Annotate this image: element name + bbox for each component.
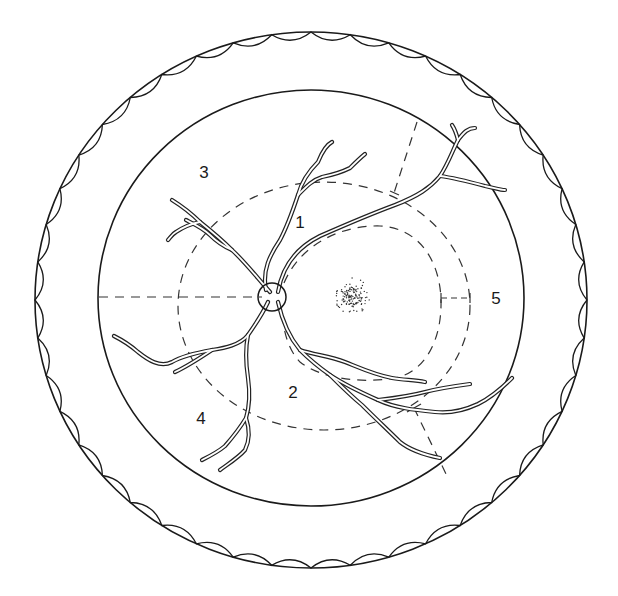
- zone-label-4: 4: [196, 410, 205, 427]
- vessel-segment: [330, 375, 440, 458]
- inner-circle: [98, 90, 524, 506]
- outer-circle: [35, 32, 587, 568]
- zone-label-3: 3: [199, 164, 208, 181]
- optic-disc: [258, 283, 286, 311]
- vessel-lumen: [378, 384, 470, 400]
- radial-divider-lower: [414, 408, 448, 478]
- vessel-lumen: [278, 140, 458, 292]
- fundus-diagram: 1 2 3 4 5: [0, 0, 618, 596]
- radial-tick-upper: [390, 191, 399, 195]
- vessel-lumen: [440, 176, 505, 190]
- radial-divider-upper: [394, 122, 417, 193]
- zone-label-2: 2: [288, 384, 297, 401]
- fovea-stipple: [336, 277, 370, 312]
- zone-label-1: 1: [295, 214, 304, 231]
- vessel-lumen: [330, 375, 440, 458]
- zone-label-5: 5: [491, 290, 500, 307]
- fundus-drawing: [0, 0, 618, 596]
- ora-serrata-scallops: [35, 32, 587, 568]
